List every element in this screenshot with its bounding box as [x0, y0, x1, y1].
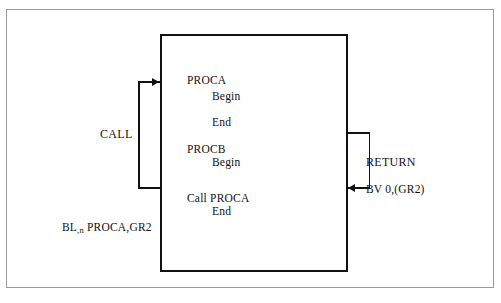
- call-arrow-bottom-arm: [138, 187, 160, 189]
- code-line-procb-begin: Begin: [212, 156, 240, 168]
- code-line-call-proca: Call PROCA: [187, 192, 249, 204]
- return-arrow-top-arm: [348, 132, 370, 134]
- call-label: CALL: [100, 127, 133, 142]
- return-instruction-label: BV 0,(GR2): [366, 183, 425, 195]
- call-instruction-label: BL,n PROCA,GR2: [62, 221, 152, 235]
- code-line-proca-begin: Begin: [212, 90, 240, 102]
- procedure-call-return-figure: PROCA Begin End PROCB Begin Call PROCA E…: [0, 0, 501, 303]
- call-instruction-mnemonic: BL: [62, 221, 77, 233]
- code-line-procb-end: End: [212, 205, 231, 217]
- call-arrowhead-icon: [152, 78, 159, 86]
- call-instruction-nullify-modifier: ,n: [77, 225, 84, 235]
- call-instruction-operands: PROCA,GR2: [84, 221, 152, 233]
- call-arrow-spine: [138, 82, 140, 188]
- return-arrowhead-icon: [348, 184, 355, 192]
- code-line-procb-header: PROCB: [187, 143, 226, 155]
- code-line-proca-header: PROCA: [187, 74, 226, 86]
- return-label: RETURN: [366, 155, 416, 170]
- code-line-proca-end: End: [212, 116, 231, 128]
